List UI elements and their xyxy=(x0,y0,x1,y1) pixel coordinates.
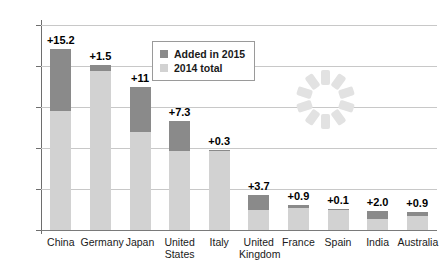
bar-segment-2014-total xyxy=(248,210,269,230)
bar-value-label: +7.3 xyxy=(169,107,191,118)
bar-segment-2014-total xyxy=(130,132,151,230)
x-label-germany: Germany xyxy=(81,236,121,248)
legend-item: Added in 2015 xyxy=(160,47,245,61)
bar-value-label: +0.9 xyxy=(288,191,310,202)
bar-germany[interactable] xyxy=(90,65,111,230)
x-label-united-kingdom: United Kingdom xyxy=(239,236,279,260)
bar-france[interactable] xyxy=(288,205,309,230)
x-label-united-states: United States xyxy=(160,236,200,260)
bar-value-label: +2.0 xyxy=(367,197,389,208)
gridline-50 xyxy=(41,25,437,26)
bar-segment-added-in-2015 xyxy=(367,211,388,219)
bar-segment-2014-total xyxy=(169,151,190,230)
legend-swatch-2014-total xyxy=(160,64,168,72)
x-label-italy: Italy xyxy=(199,236,239,248)
bar-united-states[interactable] xyxy=(169,121,190,230)
bar-japan[interactable] xyxy=(130,87,151,231)
legend-label-added-in-2015: Added in 2015 xyxy=(174,48,245,60)
x-label-china: China xyxy=(41,236,81,248)
bar-segment-2014-total xyxy=(407,216,428,230)
bar-segment-added-in-2015 xyxy=(90,65,111,71)
bar-italy[interactable] xyxy=(209,150,230,230)
bar-segment-2014-total xyxy=(90,71,111,230)
bar-segment-added-in-2015 xyxy=(407,212,428,216)
x-label-france: France xyxy=(279,236,319,248)
bar-segment-added-in-2015 xyxy=(209,150,230,151)
bar-china[interactable] xyxy=(50,49,71,230)
bar-segment-added-in-2015 xyxy=(328,209,349,210)
bar-value-label: +1.5 xyxy=(90,51,112,62)
bar-chart: 01020304050 +15.2+1.5+11+7.3+0.3+3.7+0.9… xyxy=(0,0,443,267)
bar-segment-2014-total xyxy=(367,219,388,230)
bar-united-kingdom[interactable] xyxy=(248,195,269,230)
bar-segment-2014-total xyxy=(209,151,230,230)
bar-india[interactable] xyxy=(367,211,388,230)
legend-item: 2014 total xyxy=(160,61,245,75)
bar-segment-added-in-2015 xyxy=(169,121,190,151)
bar-segment-added-in-2015 xyxy=(288,205,309,209)
x-label-spain: Spain xyxy=(318,236,358,248)
x-label-japan: Japan xyxy=(120,236,160,248)
bar-value-label: +0.3 xyxy=(208,136,230,147)
bar-segment-added-in-2015 xyxy=(130,87,151,132)
bar-value-label: +0.1 xyxy=(327,195,349,206)
bar-australia[interactable] xyxy=(407,212,428,230)
x-label-australia: Australia xyxy=(397,236,437,248)
bar-segment-added-in-2015 xyxy=(248,195,269,210)
x-label-india: India xyxy=(358,236,398,248)
bar-segment-2014-total xyxy=(50,111,71,230)
bar-value-label: +0.9 xyxy=(406,198,428,209)
chart-legend: Added in 2015 2014 total xyxy=(152,41,255,81)
bar-segment-added-in-2015 xyxy=(50,49,71,111)
bar-value-label: +11 xyxy=(131,73,149,84)
legend-swatch-added-in-2015 xyxy=(160,50,168,58)
bar-spain[interactable] xyxy=(328,209,349,230)
bar-value-label: +3.7 xyxy=(248,181,270,192)
bar-segment-2014-total xyxy=(328,210,349,231)
legend-label-2014-total: 2014 total xyxy=(174,62,222,74)
gridline-0 xyxy=(41,230,437,231)
bar-value-label: +15.2 xyxy=(47,35,75,46)
bar-segment-2014-total xyxy=(288,208,309,230)
